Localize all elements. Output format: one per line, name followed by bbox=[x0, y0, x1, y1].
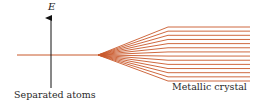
metallic-crystal-label: Metallic crystal bbox=[172, 81, 247, 92]
separated-atoms-label: Separated atoms bbox=[14, 89, 96, 100]
energy-levels bbox=[98, 27, 250, 81]
energy-axis-label: E bbox=[48, 1, 55, 12]
energy-level-line bbox=[98, 44, 250, 55]
energy-level-line bbox=[98, 55, 250, 56]
